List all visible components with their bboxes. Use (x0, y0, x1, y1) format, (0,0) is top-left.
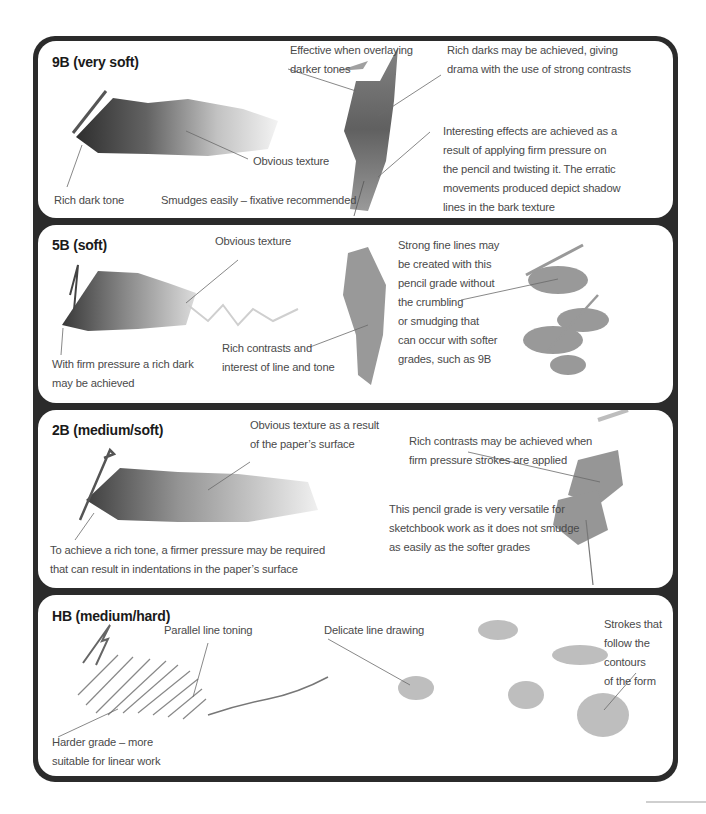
grade-title: HB (medium/hard) (52, 608, 170, 624)
label-rich-darks: Rich darks may be achieved, giving drama… (447, 41, 631, 79)
label-delicate-line-drawing: Delicate line drawing (324, 621, 424, 640)
label-firm-pressure: With firm pressure a rich dark may be ac… (52, 355, 194, 393)
panel-9b: 9B (very soft) Rich dark tone Obvious te… (38, 41, 673, 218)
label-rich-tone: To achieve a rich tone, a firmer pressur… (50, 541, 325, 579)
grade-title: 9B (very soft) (52, 54, 139, 70)
label-harder-grade: Harder grade – more suitable for linear … (52, 733, 160, 771)
grade-title: 2B (medium/soft) (52, 422, 163, 438)
panel-5b: 5B (soft) Obvious texture With firm pres… (38, 225, 673, 403)
panel-2b: 2B (medium/soft) Obvious texture as a re… (38, 410, 673, 588)
page-edge-rule (646, 801, 706, 803)
panel-hb: HB (medium/hard) Parallel line toning De… (38, 595, 673, 776)
label-overlaying: Effective when overlaying darker tones (290, 41, 413, 79)
label-rich-dark-tone: Rich dark tone (54, 191, 124, 210)
label-texture-paper: Obvious texture as a result of the paper… (250, 416, 379, 454)
label-interesting-effects: Interesting effects are achieved as a re… (443, 122, 620, 217)
label-parallel-line-toning: Parallel line toning (164, 621, 252, 640)
label-strokes-contours: Strokes that follow the contours of the … (604, 615, 662, 691)
label-rich-contrasts: Rich contrasts may be achieved when firm… (409, 432, 592, 470)
label-strong-fine-lines: Strong fine lines may be created with th… (398, 236, 499, 369)
label-obvious-texture: Obvious texture (215, 232, 291, 251)
label-smudges: Smudges easily – fixative recommended (161, 191, 356, 210)
label-obvious-texture: Obvious texture (253, 152, 329, 171)
pencil-grades-frame: 9B (very soft) Rich dark tone Obvious te… (33, 36, 678, 782)
grade-title: 5B (soft) (52, 237, 107, 253)
label-versatile: This pencil grade is very versatile for … (389, 500, 579, 557)
label-rich-contrasts: Rich contrasts and interest of line and … (222, 339, 335, 377)
